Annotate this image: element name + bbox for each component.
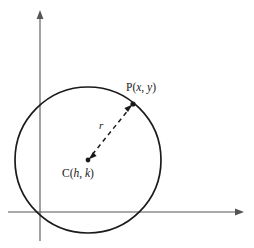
label-point-p: P(x, y) [126, 82, 156, 94]
label-center-c-prefix: C( [62, 167, 74, 179]
x-axis [8, 209, 244, 216]
x-axis-arrowhead-icon [235, 209, 244, 216]
label-point-p-prefix: P( [126, 81, 136, 93]
radius-segment [88, 105, 132, 160]
point-p-marker [130, 101, 135, 106]
label-radius-r: r [99, 120, 103, 131]
label-center-c-suffix: ) [90, 167, 94, 179]
figure-canvas: P(x, y) C(h, k) r [0, 0, 254, 248]
center-c-marker [86, 158, 91, 163]
y-axis-arrowhead-icon [37, 10, 44, 19]
label-center-c: C(h, k) [62, 168, 94, 180]
label-point-p-suffix: ) [152, 81, 156, 93]
y-axis [37, 10, 44, 241]
radius-dashed-line [92, 110, 128, 155]
circle-diagram-svg [0, 0, 254, 248]
